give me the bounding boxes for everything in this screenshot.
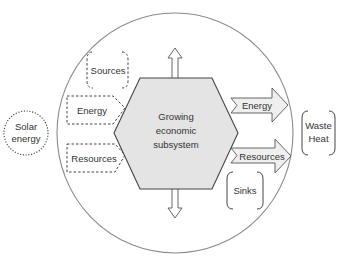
up-arrow-icon bbox=[168, 48, 182, 78]
sinks-node: Sinks bbox=[227, 172, 263, 209]
economy-ecosystem-diagram: Solar energy Sources Energy Resources Gr… bbox=[0, 0, 351, 262]
central-label-line2: economic bbox=[156, 125, 197, 136]
solar-energy-node: Solar energy bbox=[4, 111, 48, 155]
solar-label-line1: Solar bbox=[15, 121, 37, 132]
energy-output-label: Energy bbox=[242, 100, 272, 111]
central-label-line1: Growing bbox=[158, 111, 193, 122]
sources-label: Sources bbox=[91, 65, 126, 76]
sources-node: Sources bbox=[87, 52, 128, 88]
sinks-label: Sinks bbox=[233, 185, 256, 196]
waste-heat-label-line2: Heat bbox=[308, 133, 328, 144]
down-arrow-icon bbox=[168, 189, 182, 218]
growing-economic-subsystem: Growing economic subsystem bbox=[114, 78, 238, 189]
central-label-line3: subsystem bbox=[153, 139, 198, 150]
resources-input-node: Resources bbox=[67, 144, 125, 172]
energy-input-node: Energy bbox=[67, 96, 125, 124]
waste-heat-node: Waste Heat bbox=[302, 111, 335, 155]
energy-output-arrow: Energy bbox=[231, 88, 288, 122]
resources-output-arrow: Resources bbox=[231, 139, 291, 173]
resources-input-label: Resources bbox=[71, 153, 117, 164]
energy-input-label: Energy bbox=[77, 105, 107, 116]
resources-output-label: Resources bbox=[239, 151, 285, 162]
waste-heat-label-line1: Waste bbox=[305, 120, 332, 131]
solar-label-line2: energy bbox=[11, 133, 40, 144]
